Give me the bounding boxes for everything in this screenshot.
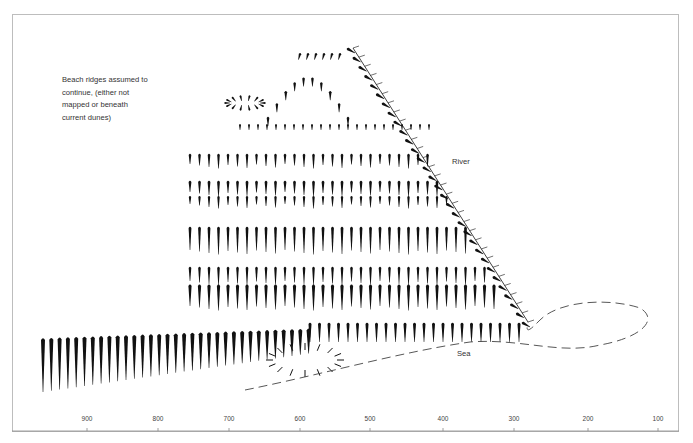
axis-tick-label: 300 xyxy=(509,415,520,422)
axis-tick-label: 200 xyxy=(583,415,594,422)
beach-ridge-diagram xyxy=(0,0,693,443)
axis-tick-label: 800 xyxy=(153,415,164,422)
axis-tick-label: 700 xyxy=(224,415,235,422)
axis-tick-label: 100 xyxy=(653,415,664,422)
axis-tick-label: 900 xyxy=(82,415,93,422)
axis-tick-label: 600 xyxy=(295,415,306,422)
axis-tick-label: 500 xyxy=(365,415,376,422)
axis-tick-label: 400 xyxy=(438,415,449,422)
